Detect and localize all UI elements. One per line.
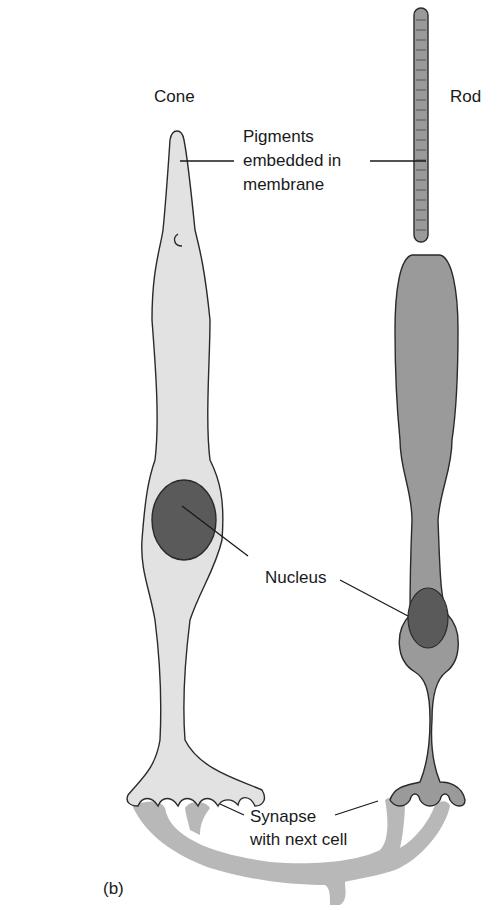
synapse-label-line2: with next cell [250, 829, 347, 850]
cone-label: Cone [154, 86, 195, 107]
synapse-label-line1: Synapse [250, 806, 316, 827]
rod-cell [390, 8, 465, 806]
cone-nucleus [152, 480, 216, 560]
rod-outer-segment [414, 8, 428, 242]
rod-nucleus [408, 588, 448, 648]
pigments-label-line1: Pigments [243, 126, 314, 147]
panel-label: (b) [103, 878, 124, 899]
pigments-label-line3: membrane [243, 174, 324, 195]
rod-label: Rod [450, 86, 481, 107]
nucleus-label: Nucleus [265, 567, 326, 588]
pigments-label-line2: embedded in [243, 150, 341, 171]
cone-cell [127, 131, 264, 806]
